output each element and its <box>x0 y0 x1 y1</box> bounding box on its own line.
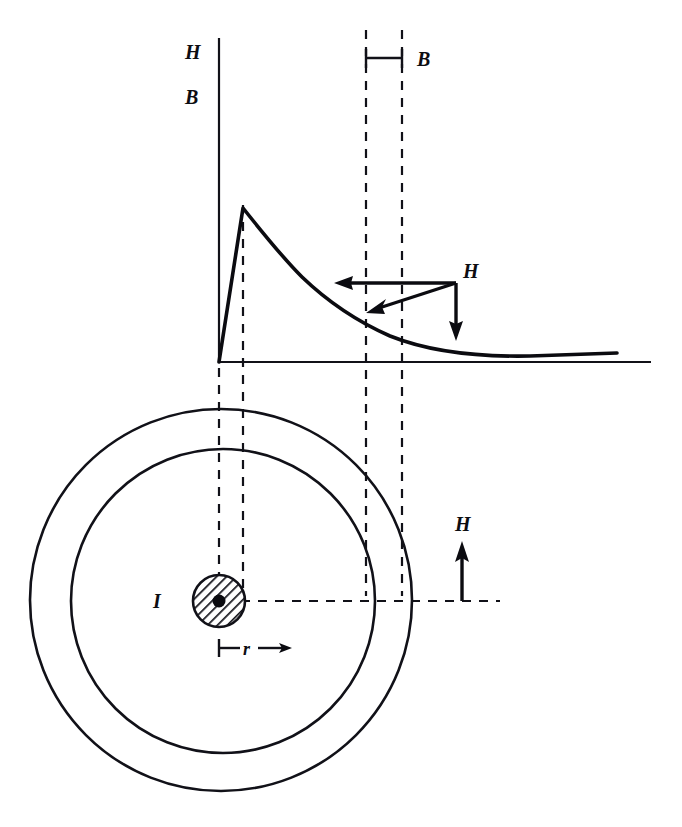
lower-diagram: I r H <box>30 409 500 791</box>
h-field-direction-arrow: H <box>454 513 472 601</box>
b-dimension-label: B <box>416 48 430 70</box>
radius-dimension-marker: r <box>219 639 292 659</box>
h-resultant-component <box>379 283 456 308</box>
axis-label-h: H <box>184 41 202 63</box>
h-vector-decomposition: H <box>334 260 480 341</box>
h-vector-label: H <box>462 260 480 282</box>
field-profile-curve <box>219 208 617 362</box>
upper-plot: H B B H <box>184 38 651 362</box>
figure-container: H B B H <box>0 0 682 827</box>
h-vertical-arrowhead <box>449 321 463 341</box>
wire-current-dot-icon <box>213 595 226 608</box>
h-field-label: H <box>454 513 472 535</box>
physics-diagram: H B B H <box>0 0 682 827</box>
axis-label-b: B <box>184 86 198 108</box>
wire-cross-section <box>193 575 245 627</box>
h-horizontal-arrowhead <box>334 276 353 290</box>
radius-label-r: r <box>243 639 251 659</box>
current-label-i: I <box>152 590 162 612</box>
b-dimension-marker: B <box>366 48 430 70</box>
